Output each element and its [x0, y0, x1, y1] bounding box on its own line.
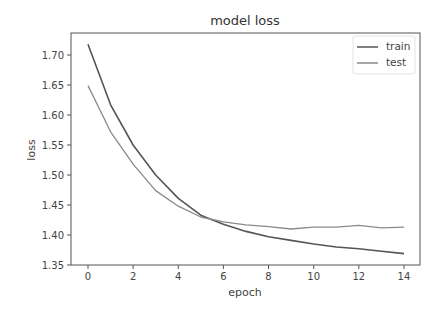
- x-tick-label: 6: [220, 271, 226, 282]
- y-tick-label: 1.35: [42, 260, 64, 271]
- x-tick-label: 12: [352, 271, 365, 282]
- y-axis: 1.351.401.451.501.551.601.651.70: [42, 50, 71, 271]
- x-axis-label: epoch: [228, 286, 262, 299]
- x-tick-label: 4: [175, 271, 181, 282]
- y-tick-label: 1.70: [42, 50, 64, 61]
- y-tick-label: 1.60: [42, 110, 64, 121]
- y-tick-label: 1.55: [42, 140, 64, 151]
- y-tick-label: 1.45: [42, 200, 64, 211]
- y-tick-label: 1.40: [42, 230, 64, 241]
- legend: train test: [353, 36, 415, 74]
- x-axis: 02468101214: [85, 265, 411, 282]
- x-tick-label: 8: [265, 271, 271, 282]
- y-axis-label: loss: [25, 139, 38, 161]
- y-tick-label: 1.65: [42, 80, 64, 91]
- y-tick-label: 1.50: [42, 170, 64, 181]
- x-tick-label: 10: [307, 271, 320, 282]
- x-tick-label: 14: [398, 271, 411, 282]
- loss-chart: model loss 1.351.401.451.501.551.601.651…: [0, 0, 441, 312]
- legend-label-test: test: [386, 56, 406, 68]
- chart-title: model loss: [210, 13, 280, 28]
- legend-label-train: train: [386, 40, 410, 52]
- x-tick-label: 2: [130, 271, 136, 282]
- x-tick-label: 0: [85, 271, 91, 282]
